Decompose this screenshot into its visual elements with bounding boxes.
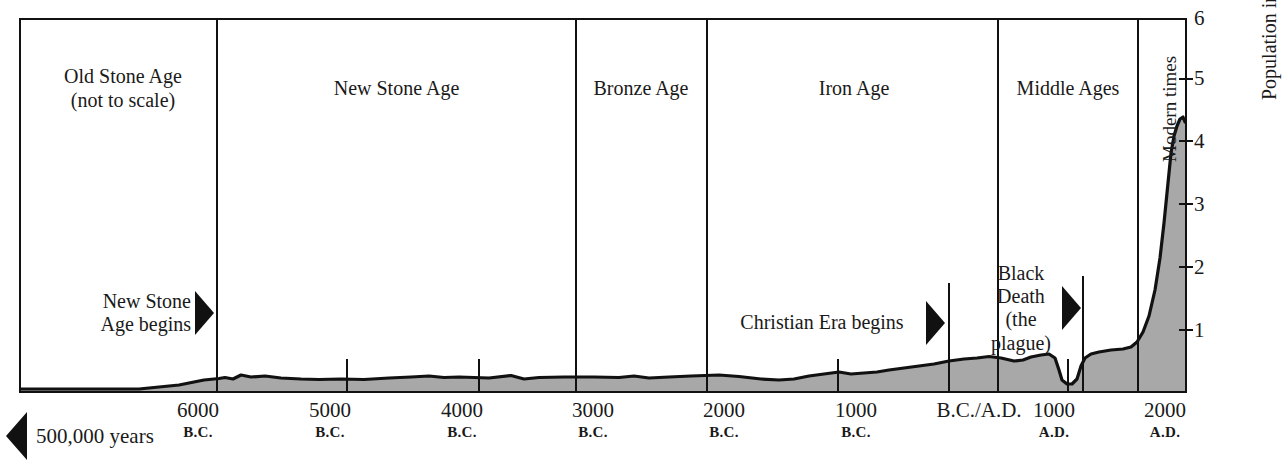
frame-top-border — [19, 18, 1187, 20]
arrow-right-icon — [195, 291, 214, 335]
y-tick-2 — [1179, 266, 1193, 268]
arrow-right-icon — [1062, 286, 1081, 330]
x-tick-4000bc — [478, 359, 480, 391]
annotation-new-stone-age-begins-text: New Stone Age begins — [81, 290, 191, 336]
x-axis-label-2000ad-value: 2000 — [1144, 398, 1186, 422]
x-axis-label-4000bc: 4000 B.C. — [430, 399, 494, 441]
population-history-chart: Old Stone Age (not to scale) New Stone A… — [0, 0, 1286, 468]
y-axis-title: Population in billions — [1258, 0, 1281, 100]
era-divider-new-stone-bronze — [575, 18, 577, 393]
pointer-line-christian-era — [948, 283, 950, 393]
scale-note-text: 500,000 years — [36, 424, 154, 449]
x-axis-label-5000bc-era: B.C. — [298, 425, 362, 441]
x-axis-label-3000bc-value: 3000 — [572, 398, 614, 422]
y-axis-label-5: 5 — [1194, 66, 1205, 91]
annotation-black-death: Black Death (the plague) — [984, 262, 1082, 355]
y-tick-4 — [1179, 140, 1193, 142]
x-axis-label-2000bc-era: B.C. — [692, 425, 756, 441]
frame-left-border — [19, 18, 21, 393]
axis-baseline — [19, 391, 1187, 393]
y-axis-label-3: 3 — [1194, 192, 1205, 217]
x-axis-label-4000bc-value: 4000 — [441, 398, 483, 422]
scale-note: 500,000 years — [6, 412, 154, 460]
frame-right-border — [1185, 18, 1187, 393]
x-axis-label-2000bc-value: 2000 — [703, 398, 745, 422]
era-divider-old-new-stone — [216, 18, 218, 393]
x-axis-label-2000ad-era: A.D. — [1133, 425, 1197, 441]
x-tick-1000bc — [837, 359, 839, 391]
x-axis-label-5000bc: 5000 B.C. — [298, 399, 362, 441]
era-label-modern-times: Modern times — [1159, 56, 1181, 162]
pointer-line-black-death — [1082, 276, 1084, 393]
era-divider-middle-modern — [1137, 18, 1139, 393]
era-divider-bronze-iron — [706, 18, 708, 393]
x-axis-label-3000bc: 3000 B.C. — [561, 399, 625, 441]
y-axis-label-2: 2 — [1194, 255, 1205, 280]
y-axis-label-1: 1 — [1194, 318, 1205, 343]
x-axis-label-2000bc: 2000 B.C. — [692, 399, 756, 441]
x-axis-label-1000ad: 1000 A.D. — [1022, 399, 1086, 441]
y-tick-5 — [1179, 78, 1193, 80]
x-axis-label-1000bc-era: B.C. — [824, 425, 888, 441]
x-axis-label-6000bc-era: B.C. — [166, 425, 230, 441]
x-tick-5000bc — [346, 359, 348, 391]
era-label-middle-ages: Middle Ages — [1003, 76, 1133, 100]
x-axis-label-3000bc-era: B.C. — [561, 425, 625, 441]
x-axis-label-2000ad: 2000 A.D. — [1133, 399, 1197, 441]
x-axis-label-1000bc-value: 1000 — [835, 398, 877, 422]
x-tick-1000ad — [1067, 359, 1069, 391]
arrow-left-icon — [6, 412, 27, 460]
x-axis-label-4000bc-era: B.C. — [430, 425, 494, 441]
y-tick-3 — [1179, 203, 1193, 205]
annotation-new-stone-age-begins: New Stone Age begins — [81, 290, 217, 336]
x-axis-label-1000ad-era: A.D. — [1022, 425, 1086, 441]
era-label-old-stone-age: Old Stone Age (not to scale) — [33, 64, 213, 113]
annotation-black-death-text: Black Death (the plague) — [984, 262, 1058, 355]
era-label-bronze-age: Bronze Age — [579, 76, 703, 100]
y-tick-1 — [1179, 329, 1193, 331]
y-axis-label-4: 4 — [1194, 129, 1205, 154]
plot-area: Old Stone Age (not to scale) New Stone A… — [19, 18, 1187, 393]
annotation-christian-era-begins: Christian Era begins — [722, 301, 948, 345]
era-label-new-stone-age: New Stone Age — [239, 76, 554, 100]
x-axis-label-6000bc: 6000 B.C. — [166, 399, 230, 441]
x-axis-label-1000bc: 1000 B.C. — [824, 399, 888, 441]
era-label-iron-age: Iron Age — [719, 76, 989, 100]
arrow-right-icon — [926, 301, 945, 345]
x-axis-label-5000bc-value: 5000 — [309, 398, 351, 422]
y-axis-label-6: 6 — [1194, 6, 1205, 31]
annotation-christian-era-begins-text: Christian Era begins — [722, 311, 922, 334]
x-axis-label-1000ad-value: 1000 — [1033, 398, 1075, 422]
x-axis-label-bc-ad-value: B.C./A.D. — [936, 398, 1021, 422]
x-axis-label-6000bc-value: 6000 — [177, 398, 219, 422]
